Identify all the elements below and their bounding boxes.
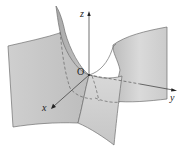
surface-rim-curve	[89, 44, 116, 75]
origin-point	[88, 74, 90, 76]
origin-label: O	[77, 66, 84, 77]
y-axis-label: y	[169, 92, 175, 103]
x-axis-label: x	[41, 102, 47, 113]
z-axis-label: z	[79, 8, 84, 19]
saddle-surface-diagram: z y x O	[0, 0, 187, 151]
surface-left-sheet	[8, 32, 89, 127]
z-axis-arrow-icon	[87, 11, 90, 16]
